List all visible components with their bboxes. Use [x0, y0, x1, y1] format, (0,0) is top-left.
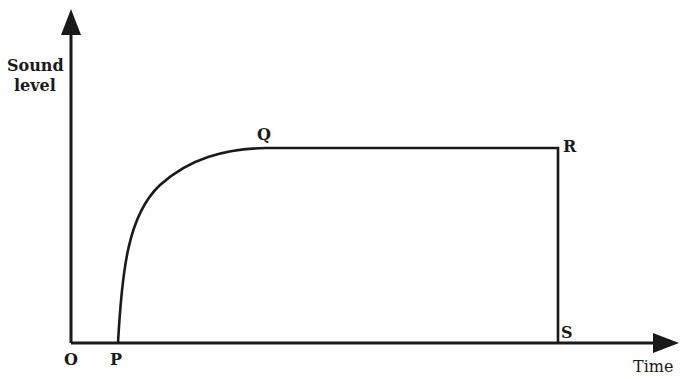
x-axis-label: Time [633, 357, 673, 376]
sound-level-time-graph: Sound level Time O P Q R S [0, 0, 686, 379]
point-label-q: Q [257, 125, 271, 144]
y-axis-label-line2: level [14, 76, 56, 95]
x-axis [71, 333, 679, 353]
sound-level-curve [118, 148, 558, 343]
point-label-s: S [561, 323, 573, 342]
point-label-p: P [110, 350, 122, 369]
x-axis-arrowhead-icon [653, 333, 679, 353]
y-axis [61, 9, 81, 343]
point-label-r: R [563, 137, 577, 156]
y-axis-label-line1: Sound [7, 56, 64, 75]
y-axis-arrowhead-icon [61, 9, 81, 35]
point-label-origin: O [64, 350, 78, 369]
